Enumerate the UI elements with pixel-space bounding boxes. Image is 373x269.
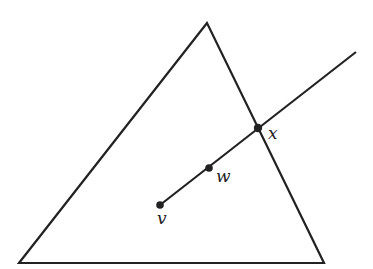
diagram-canvas: v w x <box>0 0 373 269</box>
label-v: v <box>157 208 167 228</box>
label-w: w <box>216 166 231 186</box>
triangle <box>19 23 324 263</box>
point-x <box>254 124 262 132</box>
point-w <box>205 164 213 172</box>
label-x: x <box>268 123 278 143</box>
